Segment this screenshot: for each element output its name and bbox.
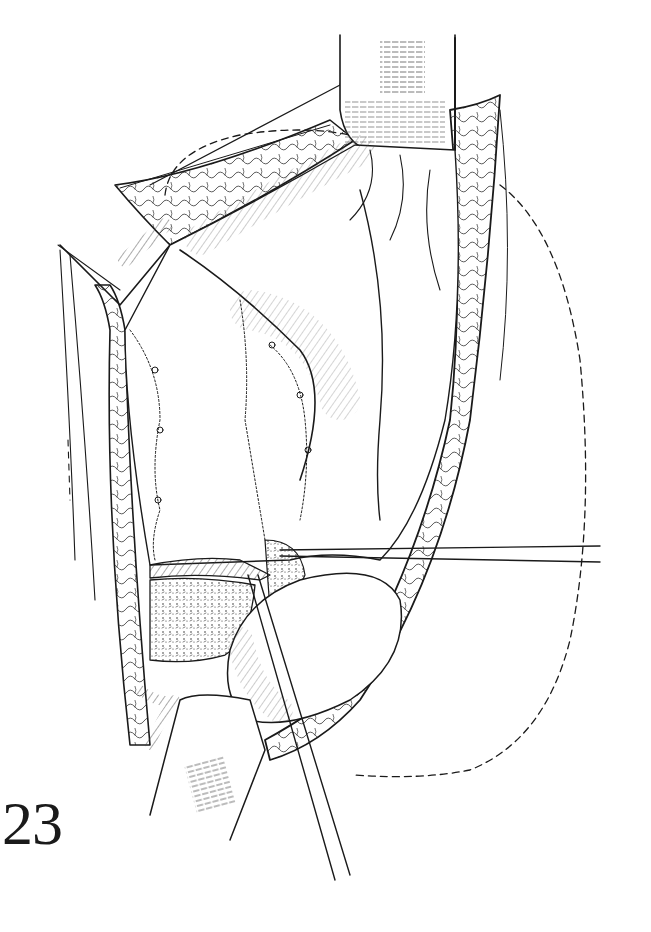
- surgical-illustration: [0, 0, 651, 932]
- figure-number: 23: [2, 792, 62, 854]
- lower-retractor: [140, 690, 265, 840]
- upper-retractor: [340, 35, 455, 150]
